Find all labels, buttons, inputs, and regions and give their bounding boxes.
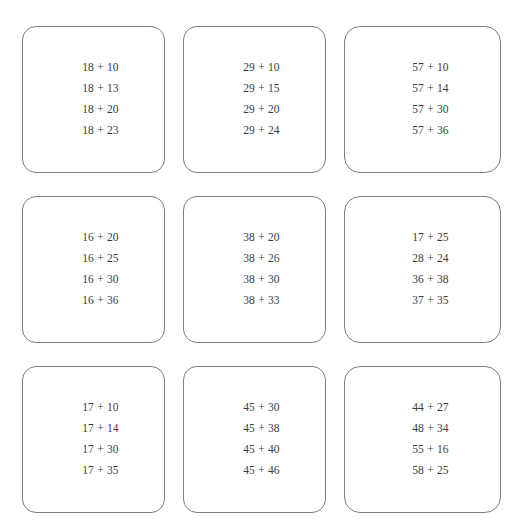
problem-list: 45 + 30 45 + 38 45 + 40 45 + 46 xyxy=(184,397,325,481)
problem-card: 57 + 10 57 + 14 57 + 30 57 + 36 xyxy=(344,26,501,173)
problem-line: 17 + 14 xyxy=(82,418,119,439)
problem-line: 29 + 20 xyxy=(243,99,280,120)
problem-line: 17 + 25 xyxy=(412,227,449,248)
problem-line: 44 + 27 xyxy=(412,397,449,418)
problem-line: 57 + 30 xyxy=(412,99,449,120)
problem-line: 57 + 10 xyxy=(412,57,449,78)
problem-line: 55 + 16 xyxy=(412,439,449,460)
problem-list: 38 + 20 38 + 26 38 + 30 38 + 33 xyxy=(184,227,325,311)
problem-list: 17 + 10 17 + 14 17 + 30 17 + 35 xyxy=(23,397,164,481)
problem-line: 17 + 30 xyxy=(82,439,119,460)
problem-list: 16 + 20 16 + 25 16 + 30 16 + 36 xyxy=(23,227,164,311)
problem-line: 48 + 34 xyxy=(412,418,449,439)
problem-line: 37 + 35 xyxy=(412,290,449,311)
problem-line: 29 + 15 xyxy=(243,78,280,99)
problem-list: 29 + 10 29 + 15 29 + 20 29 + 24 xyxy=(184,57,325,141)
problem-line: 29 + 24 xyxy=(243,120,280,141)
problem-line: 38 + 20 xyxy=(243,227,280,248)
problem-line: 38 + 26 xyxy=(243,248,280,269)
problem-card: 44 + 27 48 + 34 55 + 16 58 + 25 xyxy=(344,366,501,513)
problem-line: 18 + 13 xyxy=(82,78,119,99)
worksheet-page: 18 + 10 18 + 13 18 + 20 18 + 23 29 + 10 … xyxy=(0,0,519,527)
problem-line: 57 + 14 xyxy=(412,78,449,99)
problem-line: 28 + 24 xyxy=(412,248,449,269)
problem-card: 45 + 30 45 + 38 45 + 40 45 + 46 xyxy=(183,366,326,513)
problem-line: 16 + 36 xyxy=(82,290,119,311)
problem-line: 45 + 30 xyxy=(243,397,280,418)
problem-line: 18 + 23 xyxy=(82,120,119,141)
problem-list: 57 + 10 57 + 14 57 + 30 57 + 36 xyxy=(345,57,500,141)
problem-card: 16 + 20 16 + 25 16 + 30 16 + 36 xyxy=(22,196,165,343)
problem-line: 16 + 25 xyxy=(82,248,119,269)
problem-line: 16 + 20 xyxy=(82,227,119,248)
problem-line: 57 + 36 xyxy=(412,120,449,141)
problem-line: 45 + 40 xyxy=(243,439,280,460)
problem-line: 38 + 33 xyxy=(243,290,280,311)
problem-line: 45 + 38 xyxy=(243,418,280,439)
problem-line: 17 + 35 xyxy=(82,460,119,481)
problem-line: 29 + 10 xyxy=(243,57,280,78)
problem-list: 44 + 27 48 + 34 55 + 16 58 + 25 xyxy=(345,397,500,481)
problem-card: 17 + 10 17 + 14 17 + 30 17 + 35 xyxy=(22,366,165,513)
problem-card: 17 + 25 28 + 24 36 + 38 37 + 35 xyxy=(344,196,501,343)
problem-line: 38 + 30 xyxy=(243,269,280,290)
problem-card: 18 + 10 18 + 13 18 + 20 18 + 23 xyxy=(22,26,165,173)
problem-line: 17 + 10 xyxy=(82,397,119,418)
problem-line: 45 + 46 xyxy=(243,460,280,481)
problem-card: 29 + 10 29 + 15 29 + 20 29 + 24 xyxy=(183,26,326,173)
problem-line: 58 + 25 xyxy=(412,460,449,481)
problem-card-grid: 18 + 10 18 + 13 18 + 20 18 + 23 29 + 10 … xyxy=(22,26,502,513)
problem-line: 36 + 38 xyxy=(412,269,449,290)
problem-card: 38 + 20 38 + 26 38 + 30 38 + 33 xyxy=(183,196,326,343)
problem-line: 18 + 20 xyxy=(82,99,119,120)
problem-list: 17 + 25 28 + 24 36 + 38 37 + 35 xyxy=(345,227,500,311)
problem-line: 18 + 10 xyxy=(82,57,119,78)
problem-list: 18 + 10 18 + 13 18 + 20 18 + 23 xyxy=(23,57,164,141)
problem-line: 16 + 30 xyxy=(82,269,119,290)
